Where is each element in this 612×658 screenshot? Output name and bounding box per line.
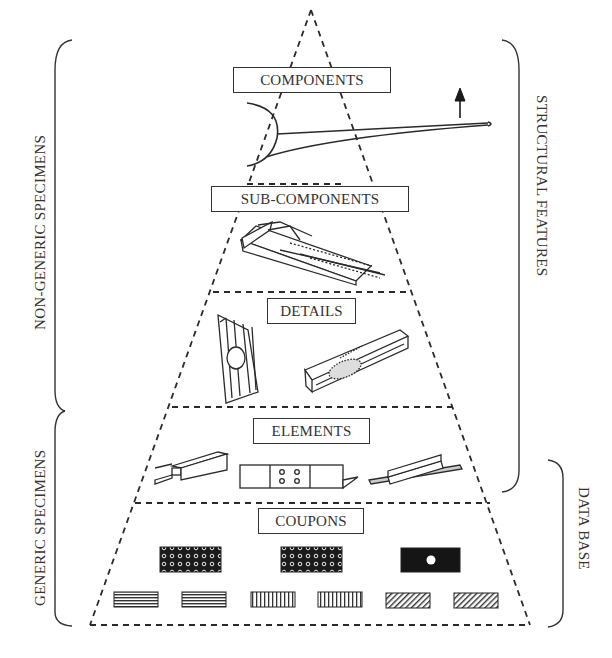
vertical-ply-coupon-1 <box>251 592 295 607</box>
bracket-generic <box>55 411 72 626</box>
bracket-data-base <box>548 460 563 627</box>
corrugated-panel-illustration <box>218 315 258 403</box>
label-non-generic-specimens: NON-GENERIC SPECIMENS <box>32 135 49 330</box>
bracket-non-generic <box>55 40 72 411</box>
vertical-ply-coupon-2 <box>318 592 362 607</box>
wing-illustration <box>247 103 491 166</box>
level-label-sub-components: SUB-COMPONENTS <box>211 186 409 212</box>
label-structural-features: STRUCTURAL FEATURES <box>533 95 550 276</box>
beam-with-patch-illustration <box>305 330 408 392</box>
pyramid-diagram <box>0 0 612 658</box>
tee-stiffener-illustration <box>369 455 462 484</box>
bolted-joint-illustration <box>240 465 358 488</box>
horizontal-ply-coupon-1 <box>114 592 158 607</box>
diagonal-ply-coupon-1 <box>386 593 430 608</box>
level-label-components: COMPONENTS <box>233 67 391 93</box>
channel-stiffener-illustration <box>155 452 227 484</box>
level-label-elements: ELEMENTS <box>253 418 370 444</box>
coupon-row-2 <box>114 592 498 608</box>
label-generic-specimens: GENERIC SPECIMENS <box>32 450 49 606</box>
level-label-details: DETAILS <box>267 298 356 324</box>
load-arrow-icon <box>455 88 465 118</box>
horizontal-ply-coupon-2 <box>182 592 226 607</box>
bracket-structural-features <box>502 40 519 492</box>
dotted-coupon-2 <box>281 547 342 572</box>
dotted-coupon-1 <box>160 547 221 572</box>
diagonal-ply-coupon-2 <box>454 593 498 608</box>
label-data-base: DATA BASE <box>575 487 592 570</box>
stiffened-panel-illustration <box>241 222 385 285</box>
coupon-row-1 <box>160 547 460 572</box>
level-label-coupons: COUPONS <box>258 508 364 534</box>
